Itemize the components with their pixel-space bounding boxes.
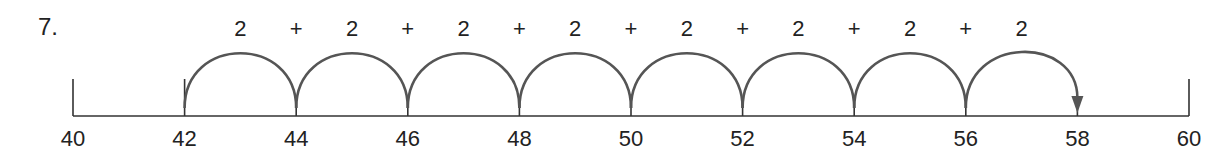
jump-label-8: 2 bbox=[1015, 16, 1027, 41]
tick-label-60: 60 bbox=[1177, 126, 1201, 151]
tick-label-46: 46 bbox=[396, 126, 420, 151]
problem-number: 7. bbox=[38, 13, 58, 40]
tick-labels: 4042444648505254565860 bbox=[61, 126, 1201, 151]
tick-label-40: 40 bbox=[61, 126, 85, 151]
plus-sign-4: + bbox=[625, 16, 638, 41]
jump-label-6: 2 bbox=[792, 16, 804, 41]
jump-labels: 2+2+2+2+2+2+2+2 bbox=[234, 16, 1027, 41]
plus-sign-5: + bbox=[736, 16, 749, 41]
tick-label-52: 52 bbox=[730, 126, 754, 151]
plus-sign-3: + bbox=[513, 16, 526, 41]
jump-label-1: 2 bbox=[234, 16, 246, 41]
jump-label-7: 2 bbox=[904, 16, 916, 41]
jump-arc-3 bbox=[408, 53, 520, 108]
arrowhead-icon bbox=[1071, 96, 1083, 113]
jump-arc-2 bbox=[296, 53, 408, 108]
tick-label-48: 48 bbox=[507, 126, 531, 151]
jump-arc-7 bbox=[854, 53, 966, 108]
tick-label-58: 58 bbox=[1065, 126, 1089, 151]
jump-label-5: 2 bbox=[681, 16, 693, 41]
plus-sign-6: + bbox=[848, 16, 861, 41]
jump-arc-5 bbox=[631, 53, 743, 108]
number-line-diagram: 7. 4042444648505254565860 2+2+2+2+2+2+2+… bbox=[0, 0, 1231, 155]
tick-label-50: 50 bbox=[619, 126, 643, 151]
jump-arc-4 bbox=[519, 53, 631, 108]
jump-label-4: 2 bbox=[569, 16, 581, 41]
jump-arc-6 bbox=[743, 53, 855, 108]
plus-sign-7: + bbox=[959, 16, 972, 41]
plus-sign-1: + bbox=[290, 16, 303, 41]
tick-label-56: 56 bbox=[954, 126, 978, 151]
jump-label-2: 2 bbox=[346, 16, 358, 41]
jump-arcs bbox=[185, 52, 1084, 113]
tick-label-44: 44 bbox=[284, 126, 308, 151]
jump-arc-1 bbox=[185, 53, 297, 108]
tick-label-54: 54 bbox=[842, 126, 866, 151]
tick-label-42: 42 bbox=[172, 126, 196, 151]
plus-sign-2: + bbox=[401, 16, 414, 41]
jump-arc-8 bbox=[966, 52, 1078, 108]
jump-label-3: 2 bbox=[457, 16, 469, 41]
